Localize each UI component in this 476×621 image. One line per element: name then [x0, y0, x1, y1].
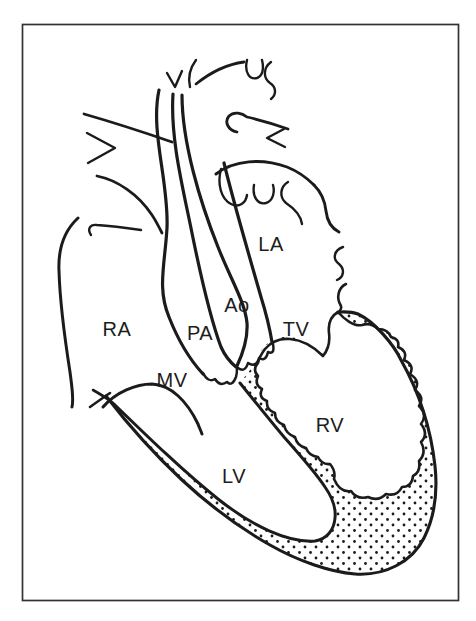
heart-diagram-svg: RA PA Ao LA TV MV RV LV: [0, 0, 476, 621]
branch-chevron-top-icon: [167, 71, 182, 87]
label-lv: LV: [222, 465, 246, 487]
label-ra: RA: [103, 318, 132, 340]
lv-cavity-outline: [114, 383, 335, 541]
rv-cavity-outline: [255, 312, 425, 499]
branch-chevron-right-icon: [267, 129, 285, 147]
label-ao: Ao: [224, 294, 249, 316]
label-mv: MV: [157, 369, 188, 391]
branch-chevron-left-icon: [87, 133, 115, 163]
pulmonary-valve-scallops: [203, 368, 237, 384]
right-atrium-outline: [59, 218, 78, 407]
aortic-arch-top: [196, 62, 244, 84]
label-rv: RV: [316, 414, 345, 436]
labels: RA PA Ao LA TV MV RV LV: [103, 233, 345, 487]
great-vessels: [157, 90, 274, 384]
heart-anatomy-figure: RA PA Ao LA TV MV RV LV: [0, 0, 476, 621]
label-tv: TV: [283, 318, 310, 340]
label-la: LA: [258, 233, 284, 255]
label-pa: PA: [187, 322, 213, 344]
